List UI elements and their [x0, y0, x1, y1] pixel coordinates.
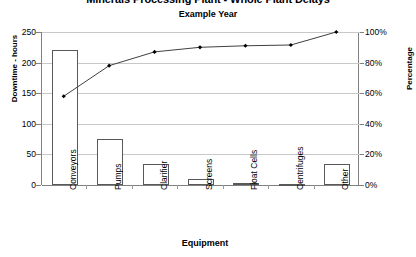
line-marker — [198, 45, 202, 49]
cumulative-line — [64, 32, 337, 96]
chart-canvas: Minerals Processing Plant - Whole Plant … — [0, 0, 416, 257]
cumulative-line-series — [0, 0, 416, 257]
line-marker — [152, 50, 156, 54]
line-marker — [243, 44, 247, 48]
line-marker — [334, 30, 338, 34]
line-marker — [289, 43, 293, 47]
